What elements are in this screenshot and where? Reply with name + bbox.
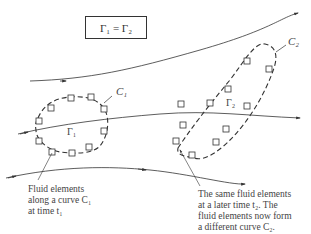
streamline-bottom [6, 168, 245, 184]
equation-box: Γ₁ = Γ₂ [85, 16, 147, 39]
annotation-right-line2: at a later time t₂. The [198, 200, 292, 211]
c1-fluid-elements [36, 94, 107, 156]
curve-c1 [36, 97, 108, 153]
c2-leader [276, 45, 286, 52]
annotation-right: The same fluid elements at a later time … [198, 189, 292, 233]
annotation-right-line4: a different curve C₂. [198, 222, 292, 233]
c2-fluid-elements [173, 58, 272, 158]
annotation-left: Fluid elements along a curve C₁ at time … [28, 184, 91, 217]
left-pointer [38, 153, 52, 180]
label-c2: C₂ [288, 36, 299, 47]
annotation-right-line1: The same fluid elements [198, 189, 292, 200]
label-gamma1: Γ₁ [67, 126, 76, 137]
c1-leader [104, 96, 112, 103]
label-gamma2: Γ₂ [226, 97, 235, 108]
streamlines [6, 13, 300, 184]
annotation-left-line1: Fluid elements [28, 184, 91, 195]
equation-text: Γ₁ = Γ₂ [100, 22, 132, 34]
annotation-left-line3: at time t₁ [28, 206, 91, 217]
annotation-left-line2: along a curve C₁ [28, 195, 91, 206]
streamline-top [30, 13, 298, 81]
annotation-right-line3: fluid elements now form [198, 211, 292, 222]
streamline-middle [18, 113, 300, 134]
label-c1: C₁ [116, 86, 127, 97]
